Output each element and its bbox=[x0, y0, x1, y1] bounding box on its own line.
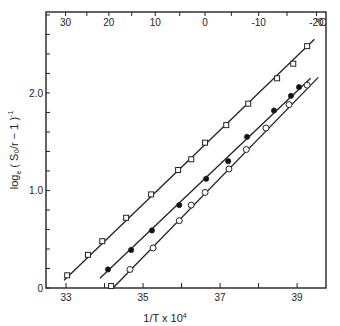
y-axis-title-rest: ( S₀/r − 1 ) bbox=[8, 117, 20, 171]
data-point-square bbox=[203, 140, 208, 145]
data-point-square bbox=[291, 61, 296, 66]
data-point-square bbox=[224, 123, 229, 128]
data-point-filled-circle bbox=[296, 84, 301, 89]
arrhenius-chart: 3335373901.02.03020100-10-20°C 1/T x 104… bbox=[0, 0, 340, 326]
data-point-open-circle bbox=[243, 147, 249, 153]
top-tick-label: 20 bbox=[103, 17, 115, 28]
data-point-open-circle bbox=[176, 218, 182, 224]
data-point-square bbox=[189, 157, 194, 162]
data-point-square bbox=[275, 76, 280, 81]
data-point-square bbox=[100, 239, 105, 244]
x-axis-title: 1/T x 104 bbox=[143, 312, 187, 324]
x-tick-label: 37 bbox=[215, 292, 227, 303]
data-point-square bbox=[305, 44, 310, 49]
data-point-filled-circle bbox=[226, 159, 231, 164]
data-point-filled-circle bbox=[149, 228, 154, 233]
top-tick-label: -10 bbox=[251, 17, 266, 28]
data-point-square bbox=[65, 273, 70, 278]
data-point-open-circle bbox=[263, 125, 269, 131]
data-point-filled-circle bbox=[271, 108, 276, 113]
fit-line bbox=[113, 77, 318, 288]
data-point-square bbox=[109, 284, 114, 289]
plot-frame bbox=[46, 12, 326, 288]
y-tick-label: 0 bbox=[37, 283, 43, 294]
data-point-open-circle bbox=[127, 266, 133, 272]
axes: 3335373901.02.03020100-10-20°C bbox=[29, 12, 327, 303]
y-axis-title: loge ( S₀/r − 1 )-1 bbox=[7, 111, 22, 190]
data-point-filled-circle bbox=[244, 134, 249, 139]
data-point-square bbox=[124, 215, 129, 220]
data-point-square bbox=[176, 167, 181, 172]
data-point-filled-circle bbox=[204, 176, 209, 181]
data-point-filled-circle bbox=[105, 267, 110, 272]
x-axis-title-sup: 4 bbox=[183, 312, 187, 319]
data-point-open-circle bbox=[188, 202, 194, 208]
data-point-open-circle bbox=[202, 189, 208, 195]
data-point-open-circle bbox=[286, 102, 292, 108]
fit-lines bbox=[64, 39, 318, 288]
data-point-square bbox=[149, 192, 154, 197]
data-point-square bbox=[85, 252, 90, 257]
y-axis-title-sup: -1 bbox=[7, 111, 14, 117]
y-axis-title-log: log bbox=[8, 175, 20, 190]
data-point-filled-circle bbox=[129, 247, 134, 252]
x-tick-label: 33 bbox=[60, 292, 72, 303]
x-tick-label: 35 bbox=[137, 292, 149, 303]
top-axis-unit: °C bbox=[315, 17, 326, 28]
top-tick-label: 0 bbox=[202, 17, 208, 28]
top-tick-label: 10 bbox=[150, 17, 162, 28]
data-point-open-circle bbox=[304, 82, 310, 88]
x-axis-title-main: 1/T x 10 bbox=[143, 312, 183, 324]
data-point-open-circle bbox=[226, 166, 232, 172]
data-point-open-circle bbox=[150, 245, 156, 251]
data-point-filled-circle bbox=[288, 93, 293, 98]
data-point-square bbox=[246, 101, 251, 106]
y-tick-label: 1.0 bbox=[29, 185, 43, 196]
x-tick-label: 39 bbox=[292, 292, 304, 303]
y-tick-label: 2.0 bbox=[29, 88, 43, 99]
data-point-filled-circle bbox=[177, 203, 182, 208]
top-tick-label: 30 bbox=[60, 17, 72, 28]
data-points bbox=[65, 44, 310, 289]
